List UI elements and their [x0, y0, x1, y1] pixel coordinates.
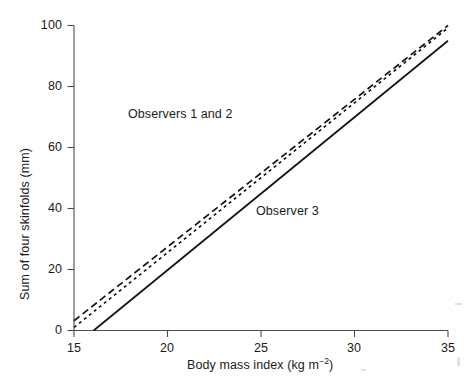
scan-speck-a	[455, 303, 462, 305]
annotation-observers-1-and-2: Observers 1 and 2	[128, 107, 233, 121]
x-tick-label-30: 30	[334, 341, 374, 355]
x-axis-title-prefix: Body mass index (kg m	[187, 358, 319, 372]
y-tick-label-100: 100	[26, 18, 62, 32]
series-line-observer-3	[94, 41, 448, 331]
plot-canvas	[0, 0, 473, 386]
annotation-observer-3: Observer 3	[256, 204, 319, 218]
x-tick-label-15: 15	[54, 341, 94, 355]
x-axis-title: Body mass index (kg m−2)	[187, 358, 333, 372]
figure-container: 100 80 60 40 20 0 15 20 25 30 35 Sum of …	[0, 0, 473, 386]
x-tick-label-20: 20	[147, 341, 187, 355]
scan-speck-c	[361, 369, 366, 371]
x-axis-title-exponent: −2	[319, 356, 329, 366]
series-line-observer-2	[74, 28, 448, 328]
y-tick-label-0: 0	[26, 323, 62, 337]
x-tick-label-25: 25	[241, 341, 281, 355]
y-axis-title: Sum of four skinfolds (mm)	[18, 148, 32, 300]
x-tick-label-35: 35	[428, 341, 468, 355]
y-tick-label-80: 80	[26, 79, 62, 93]
scan-speck-b	[457, 357, 460, 366]
x-axis-title-suffix: )	[329, 358, 333, 372]
series-line-observer-1	[74, 26, 448, 321]
